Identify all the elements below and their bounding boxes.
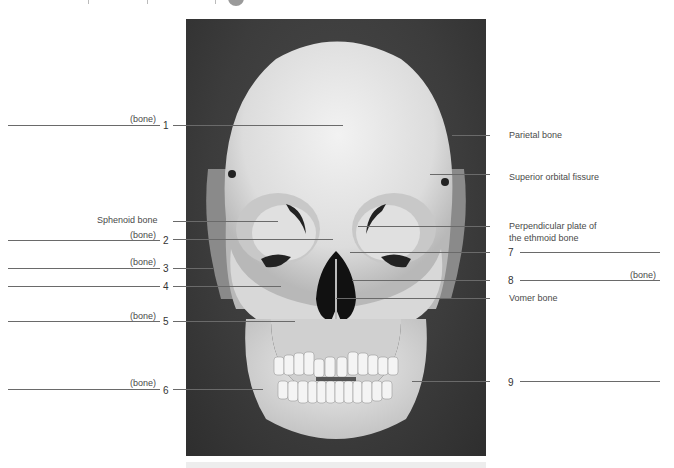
bone-hint-1: (bone): [130, 114, 156, 124]
answer-blank-8[interactable]: [520, 280, 660, 281]
label-number-4: 4: [163, 281, 169, 292]
leader-line-superior-orbital-fissure: [430, 174, 490, 175]
bone-hint-6: (bone): [130, 378, 156, 388]
label-number-9: 9: [508, 377, 514, 388]
leader-line-7: [350, 252, 490, 253]
answer-blank-6[interactable]: [8, 389, 160, 390]
answer-blank-3[interactable]: [8, 268, 160, 269]
answer-blank-1[interactable]: [8, 125, 160, 126]
leader-line-4: [173, 286, 281, 287]
top-tick: [147, 0, 148, 4]
label-perpendicular-plate-line2: the ethmoid bone: [509, 233, 579, 244]
answer-blank-5[interactable]: [8, 321, 160, 322]
top-tick: [215, 0, 216, 4]
leader-line-parietal: [452, 135, 490, 136]
footer-strip: [186, 462, 486, 468]
bone-hint-5: (bone): [130, 311, 156, 321]
label-parietal-bone: Parietal bone: [509, 130, 562, 141]
label-sphenoid-bone: Sphenoid bone: [97, 215, 158, 226]
bone-hint-8: (bone): [630, 270, 656, 280]
top-tick: [88, 0, 89, 4]
label-superior-orbital-fissure: Superior orbital fissure: [509, 172, 599, 183]
leader-line-8: [352, 280, 490, 281]
skull-illustration: [186, 19, 486, 456]
leader-line-2: [173, 239, 333, 240]
answer-blank-2[interactable]: [8, 240, 160, 241]
leader-line-3: [173, 268, 213, 269]
leader-line-6: [173, 389, 263, 390]
top-marker-dot: [228, 0, 244, 6]
label-number-5: 5: [163, 316, 169, 327]
leader-line-9: [412, 381, 490, 382]
bone-hint-2: (bone): [130, 230, 156, 240]
label-number-1: 1: [163, 120, 169, 131]
answer-blank-4[interactable]: [8, 286, 160, 287]
label-perpendicular-plate-line1: Perpendicular plate of: [509, 221, 597, 232]
leader-line-sphenoid: [173, 221, 278, 222]
leader-line-vomer: [336, 298, 490, 299]
label-number-2: 2: [163, 235, 169, 246]
leader-line-5: [173, 321, 295, 322]
leader-line-1: [173, 125, 343, 126]
leader-line-perpendicular-plate: [358, 226, 490, 227]
answer-blank-9[interactable]: [520, 381, 660, 382]
label-number-6: 6: [163, 385, 169, 396]
answer-blank-7[interactable]: [520, 252, 660, 253]
bone-hint-3: (bone): [130, 257, 156, 267]
skull-photo: [186, 19, 486, 456]
label-number-8: 8: [508, 275, 514, 286]
label-number-3: 3: [163, 263, 169, 274]
label-vomer-bone: Vomer bone: [509, 293, 558, 304]
label-number-7: 7: [508, 247, 514, 258]
